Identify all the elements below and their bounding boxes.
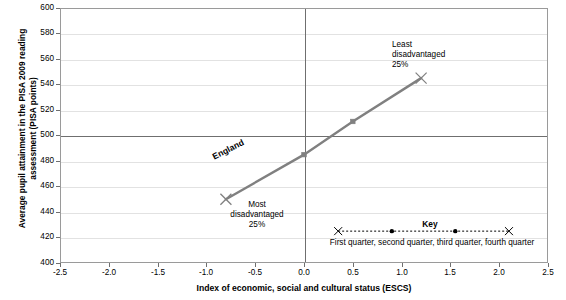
x-tick-label-2.5: 2.5 bbox=[530, 268, 566, 277]
x-tick-0.0 bbox=[304, 263, 305, 267]
x-tick-label-1.5: 1.5 bbox=[432, 268, 468, 277]
reference-line-vertical-zero bbox=[305, 9, 306, 262]
y-tick-600 bbox=[56, 8, 60, 9]
x-tick-label-0.0: 0.0 bbox=[286, 268, 322, 277]
gridline-480 bbox=[61, 162, 547, 163]
x-tick-label-n1.0: -1.0 bbox=[188, 268, 224, 277]
y-tick-500 bbox=[56, 135, 60, 136]
y-tick-560 bbox=[56, 59, 60, 60]
y-tick-label-400: 400 bbox=[28, 258, 54, 267]
gridline-540 bbox=[61, 85, 547, 86]
y-tick-label-420: 420 bbox=[28, 232, 54, 241]
gridline-580 bbox=[61, 34, 547, 35]
key-title: Key bbox=[385, 219, 475, 229]
y-tick-label-540: 540 bbox=[28, 79, 54, 88]
x-tick-label-n0.5: -0.5 bbox=[237, 268, 273, 277]
y-tick-480 bbox=[56, 161, 60, 162]
reference-line-horizontal-500 bbox=[61, 136, 547, 137]
annotation-most-disadvantaged: Most disadvantaged 25% bbox=[214, 200, 300, 230]
x-tick-1.5 bbox=[450, 263, 451, 267]
y-tick-540 bbox=[56, 84, 60, 85]
y-tick-label-600: 600 bbox=[28, 3, 54, 12]
gridline-520 bbox=[61, 111, 547, 112]
x-tick-n2.5 bbox=[60, 263, 61, 267]
y-tick-580 bbox=[56, 33, 60, 34]
key-caption: First quarter, second quarter, third qua… bbox=[316, 238, 548, 247]
y-tick-label-460: 460 bbox=[28, 181, 54, 190]
y-tick-420 bbox=[56, 237, 60, 238]
y-tick-label-500: 500 bbox=[28, 130, 54, 139]
x-tick-label-n2.5: -2.5 bbox=[42, 268, 78, 277]
y-tick-520 bbox=[56, 110, 60, 111]
x-tick-label-2.0: 2.0 bbox=[481, 268, 517, 277]
x-tick-0.5 bbox=[353, 263, 354, 267]
y-axis-title: Average pupil attainment in the PISA 200… bbox=[17, 4, 38, 254]
x-tick-1.0 bbox=[402, 263, 403, 267]
x-tick-label-n2.0: -2.0 bbox=[91, 268, 127, 277]
y-tick-label-560: 560 bbox=[28, 54, 54, 63]
y-tick-460 bbox=[56, 186, 60, 187]
x-tick-2.0 bbox=[499, 263, 500, 267]
y-tick-440 bbox=[56, 212, 60, 213]
annotation-least-disadvantaged: Least disadvantaged 25% bbox=[392, 40, 476, 70]
gridline-440 bbox=[61, 213, 547, 214]
y-tick-label-580: 580 bbox=[28, 28, 54, 37]
x-tick-n1.0 bbox=[206, 263, 207, 267]
chart-figure: Average pupil attainment in the PISA 200… bbox=[0, 0, 566, 300]
x-tick-2.5 bbox=[548, 263, 549, 267]
y-tick-label-480: 480 bbox=[28, 156, 54, 165]
gridline-460 bbox=[61, 187, 547, 188]
x-tick-label-1.0: 1.0 bbox=[384, 268, 420, 277]
x-tick-n0.5 bbox=[255, 263, 256, 267]
x-tick-label-n1.5: -1.5 bbox=[140, 268, 176, 277]
x-axis-title: Index of economic, social and cultural s… bbox=[60, 283, 548, 293]
y-tick-label-520: 520 bbox=[28, 105, 54, 114]
x-tick-n2.0 bbox=[109, 263, 110, 267]
x-tick-n1.5 bbox=[158, 263, 159, 267]
y-tick-label-440: 440 bbox=[28, 207, 54, 216]
x-tick-label-0.5: 0.5 bbox=[335, 268, 371, 277]
